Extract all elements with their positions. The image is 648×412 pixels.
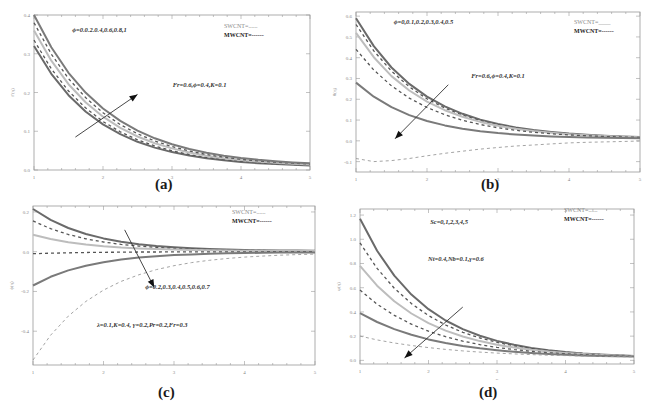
x-tick-label: 2: [102, 370, 105, 375]
y-tick-label: 0.0: [346, 139, 353, 144]
x-tick-label: 1: [32, 370, 35, 375]
annotation-1: Nt=0.4,Nb=0.1,γ=0.6: [427, 255, 485, 262]
x-tick-label: 2: [427, 369, 430, 374]
y-tick-label: 0.5: [346, 35, 353, 40]
y-axis-label: f′(η): [10, 88, 15, 97]
y-tick-label: 0.8: [350, 261, 357, 266]
y-tick-label: 0.4: [24, 13, 31, 18]
y-axis-label: φ(η): [336, 282, 341, 291]
chart-panel-b: 12345-0.10.00.10.20.30.40.50.6ηθ(η)ϕ=0,0…: [324, 0, 648, 182]
y-tick-label: 0.0: [23, 250, 30, 255]
legend-entry-mwcnt: MWCNT=------: [232, 218, 272, 224]
annotation-1: Fr=0.6,ϕ=0.4,K=0.1: [471, 72, 525, 79]
x-axis-label: η: [496, 377, 499, 380]
y-tick-label: 0.0: [24, 168, 31, 173]
x-tick-label: 5: [639, 177, 642, 182]
x-tick-label: 1: [33, 175, 36, 180]
legend-entry-mwcnt: MWCNT=------: [574, 28, 614, 34]
caption-c: (c): [158, 384, 175, 401]
chart-panel-a: 123450.00.10.20.30.4ηf′(η)ϕ=0.0.2.0.4,0.…: [0, 0, 324, 182]
y-tick-label: 0.6: [350, 286, 357, 291]
x-tick-label: 3: [496, 369, 499, 374]
x-tick-label: 4: [568, 177, 571, 182]
y-tick-label: -0.1: [344, 160, 352, 165]
x-tick-label: 1: [359, 369, 362, 374]
x-tick-label: 4: [243, 370, 246, 375]
y-tick-label: 1.0: [350, 237, 357, 242]
annotation-1: Fr=0.6,ϕ=0.4,K=0.1: [173, 81, 227, 88]
legend-entry-swcnt: SWCNT=____: [574, 19, 611, 25]
y-tick-label: 0.3: [346, 76, 353, 81]
legend-entry-swcnt: SWCNT=......: [224, 23, 258, 29]
legend-entry-swcnt: SWCNT=......: [564, 207, 598, 213]
chart-panel-d: 123450.00.20.40.60.81.01.2ηφ(η)Sc=0,1,2,…: [324, 198, 648, 380]
chart-panel-c: 12345-0.4-0.20.00.2ηϕ(η)ϕ=0.2,0.3,0.4,0.…: [0, 198, 324, 380]
y-tick-label: 0.4: [346, 56, 353, 61]
x-tick-label: 5: [633, 369, 636, 374]
caption-d: (d): [479, 384, 497, 401]
y-tick-label: 0.2: [350, 334, 357, 339]
figure: 123450.00.10.20.30.4ηf′(η)ϕ=0.0.2.0.4,0.…: [0, 0, 648, 412]
y-axis-label: ϕ(η): [9, 281, 14, 290]
y-tick-label: -0.4: [21, 329, 29, 334]
x-tick-label: 2: [102, 175, 105, 180]
legend-entry-mwcnt: MWCNT=------: [564, 216, 604, 222]
caption-b: (b): [481, 176, 499, 193]
caption-a: (a): [155, 176, 173, 193]
y-tick-label: 0.4: [350, 310, 357, 315]
y-tick-label: 1.2: [350, 213, 357, 218]
annotation-0: ϕ=0.2,0.3,0.4,0.5,0.6,0.7: [145, 283, 210, 290]
annotation-1: λ=0.1,K=0.4, γ=0.2,Pr=0.2,Fr=0.3: [96, 321, 188, 328]
y-tick-label: 0.0: [350, 358, 357, 363]
x-tick-label: 4: [564, 369, 567, 374]
y-tick-label: 0.2: [23, 210, 30, 215]
annotation-0: ϕ=0,0.1,0.2,0.3,0.4,0.5: [394, 18, 454, 25]
x-tick-label: 3: [173, 370, 176, 375]
y-tick-label: 0.1: [346, 118, 353, 123]
x-tick-label: 4: [240, 175, 243, 180]
plot-frame: [356, 12, 640, 172]
y-tick-label: 0.6: [346, 14, 353, 19]
annotation-0: ϕ=0.0.2.0.4,0.6,0.8,1: [72, 26, 127, 33]
legend-entry-swcnt: SWCNT=......: [232, 209, 266, 215]
x-tick-label: 5: [309, 175, 312, 180]
annotation-0: Sc=0,1,2,3,4,5: [430, 218, 469, 225]
x-tick-label: 1: [355, 177, 358, 182]
legend-entry-mwcnt: MWCNT=------: [224, 32, 264, 38]
y-tick-label: -0.2: [21, 289, 29, 294]
x-axis-label: η: [173, 378, 176, 380]
x-tick-label: 5: [314, 370, 317, 375]
y-tick-label: 0.2: [346, 97, 353, 102]
y-tick-label: 0.3: [24, 52, 31, 57]
y-tick-label: 0.1: [24, 129, 31, 134]
y-axis-label: θ(η): [332, 87, 337, 96]
y-tick-label: 0.2: [24, 91, 31, 96]
x-tick-label: 2: [426, 177, 429, 182]
